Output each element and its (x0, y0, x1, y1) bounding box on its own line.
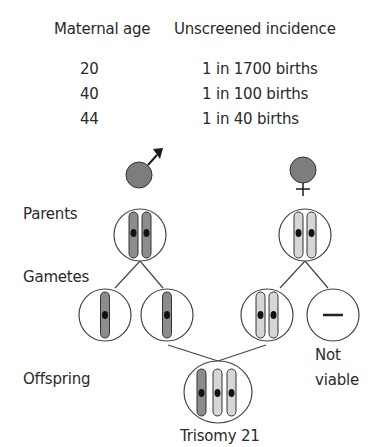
label-gametes: Gametes (23, 268, 89, 286)
female-symbol-icon (290, 157, 316, 196)
maternal-gamete-disomic (241, 289, 293, 341)
label-parents: Parents (23, 205, 77, 223)
male-symbol-icon (126, 148, 163, 188)
label-not-viable-1: Not (315, 346, 341, 364)
maternal-gamete-nullisomic (307, 289, 359, 341)
label-offspring: Offspring (23, 370, 90, 388)
paternal-gamete-1 (79, 289, 131, 341)
mother-parent-cell (279, 209, 331, 261)
label-not-viable-2: viable (315, 371, 359, 389)
paternal-gamete-2 (141, 289, 193, 341)
offspring-trisomy-cell (184, 361, 252, 423)
label-trisomy-21: Trisomy 21 (180, 427, 260, 445)
father-parent-cell (114, 209, 166, 261)
